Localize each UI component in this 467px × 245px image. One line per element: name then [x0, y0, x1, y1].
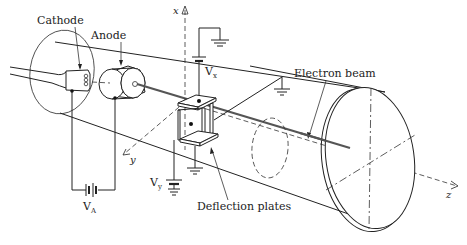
deflection-plates-label: Deflection plates	[197, 200, 292, 213]
electron-beam-label: Electron beam	[294, 67, 376, 80]
cathode-pointer	[75, 27, 80, 68]
x-axis	[182, 6, 188, 150]
battery-va-circuit	[72, 91, 115, 197]
anode	[99, 66, 145, 100]
va-subscript: A	[90, 207, 97, 215]
z-axis-label: z	[445, 189, 452, 200]
crt-diagram: Cathode Anode V A x	[0, 0, 467, 245]
battery-vx-circuit	[192, 28, 229, 98]
y-axis-label: y	[129, 154, 136, 165]
ground-side-icon	[214, 77, 290, 120]
cathode-body	[66, 70, 90, 91]
deflection-pointer	[212, 150, 228, 200]
x-axis-label: x	[173, 5, 179, 16]
cathode-leads	[10, 67, 90, 93]
vx-subscript: x	[213, 72, 217, 80]
battery-vy-circuit	[166, 140, 203, 195]
screen	[312, 82, 423, 238]
vy-subscript: y	[157, 183, 162, 191]
y-axis	[123, 102, 185, 155]
anode-label: Anode	[90, 29, 126, 42]
cathode-label: Cathode	[37, 14, 84, 27]
deflection-plates	[178, 95, 218, 146]
